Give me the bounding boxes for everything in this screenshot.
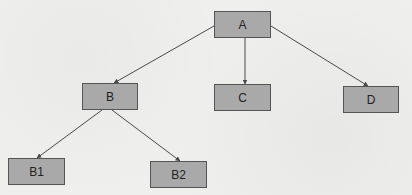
node-c-label: C: [238, 91, 247, 105]
node-b-label: B: [106, 90, 114, 104]
edge-b-b2-arrow: [112, 110, 180, 161]
edge-a-d-arrow: [271, 26, 368, 86]
node-b2: B2: [150, 161, 207, 188]
node-b2-label: B2: [171, 168, 186, 182]
node-a: A: [214, 11, 271, 38]
node-b1: B1: [8, 158, 65, 185]
edge-b-b1-arrow: [37, 110, 102, 158]
node-a-label: A: [238, 18, 246, 32]
diagram-canvas: A B C D B1 B2: [0, 0, 412, 195]
node-d-label: D: [367, 93, 376, 107]
edge-a-b-arrow: [114, 26, 214, 83]
node-b: B: [82, 83, 138, 110]
node-b1-label: B1: [29, 165, 44, 179]
node-d: D: [343, 86, 399, 113]
node-c: C: [214, 84, 271, 111]
